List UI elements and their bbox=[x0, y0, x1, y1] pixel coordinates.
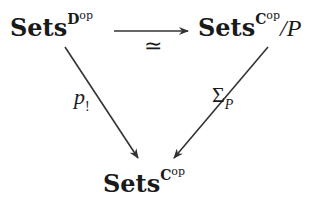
p-shriek-label: p! bbox=[74, 86, 90, 112]
node-sets-c-op-bottom: SetsCop bbox=[103, 172, 185, 196]
label-main: Σ bbox=[212, 82, 225, 107]
node-base: Sets bbox=[10, 13, 67, 42]
node-slice-suffix: /P bbox=[280, 15, 301, 41]
node-superscript-letter: D bbox=[67, 11, 79, 27]
equivalence-label: ≃ bbox=[144, 35, 162, 57]
node-sets-d-op: SetsDop bbox=[10, 16, 93, 40]
node-base: Sets bbox=[103, 169, 160, 198]
node-superscript-op: op bbox=[266, 9, 280, 22]
equivalence-symbol: ≃ bbox=[144, 33, 162, 58]
label-subscript: ! bbox=[85, 99, 90, 114]
label-main: p bbox=[74, 84, 85, 109]
node-base: Sets bbox=[198, 13, 255, 42]
label-subscript: P bbox=[225, 97, 234, 112]
node-superscript-op: op bbox=[171, 165, 185, 178]
node-superscript-letter: C bbox=[255, 11, 266, 27]
sigma-p-label: ΣP bbox=[212, 84, 233, 110]
node-sets-c-op-over-p: SetsCop/P bbox=[198, 16, 301, 40]
node-superscript-letter: C bbox=[160, 167, 171, 183]
node-superscript-op: op bbox=[79, 9, 93, 22]
